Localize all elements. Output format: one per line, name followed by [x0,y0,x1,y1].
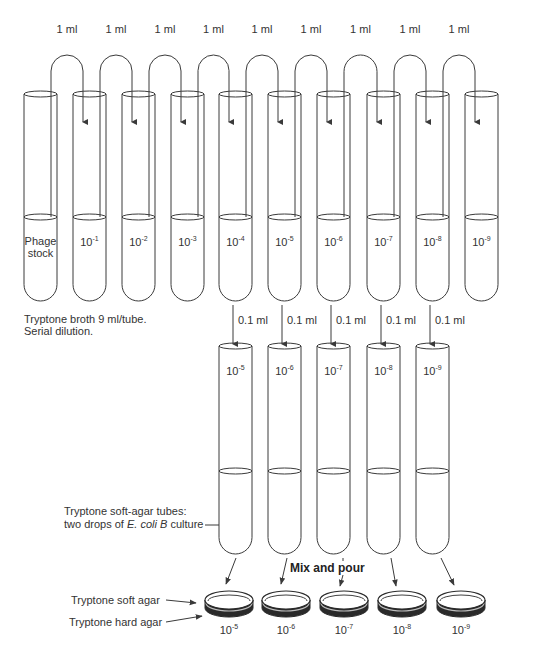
top-tube [465,91,498,301]
transfer-arc-labels: 1 ml1 ml1 ml1 ml1 ml1 ml1 ml1 ml1 ml [57,23,470,35]
transfer-volume-label: 1 ml [400,23,421,35]
hard-agar-pointer [166,616,202,622]
top-tube [317,91,350,301]
transfer-pipette-arc [149,55,181,217]
transfer-pipette-arc [246,55,278,217]
petri-plate [262,591,310,617]
serial-dilution-diagram: 1 ml1 ml1 ml1 ml1 ml1 ml1 ml1 ml1 ml Pha… [0,0,534,651]
soft-agar-tube-label: 10-7 [324,364,343,377]
pour-arrow [226,558,236,584]
transfer-volume-label: 1 ml [350,23,371,35]
phage-stock-label: stock [28,247,54,259]
mid-transfer-label: 0.1 ml [386,314,416,326]
diagram-canvas: 1 ml1 ml1 ml1 ml1 ml1 ml1 ml1 ml1 ml Pha… [0,0,534,651]
pour-arrow [441,558,454,585]
top-tube-dilution-label: 10-8 [423,235,442,248]
mid-transfer-labels: 0.1 ml0.1 ml0.1 ml0.1 ml0.1 ml [238,314,465,326]
soft-agar-tube-label: 10-6 [275,364,294,377]
transfer-volume-label: 1 ml [57,23,78,35]
top-tube-dilution-label: 10-2 [129,235,148,248]
top-tube [122,91,155,301]
mid-transfer-label: 0.1 ml [287,314,317,326]
transfer-volume-label: 1 ml [106,23,127,35]
hard-agar-layer-label: Tryptone hard agar [69,616,162,628]
broth-note-line1: Tryptone broth 9 ml/tube. [24,313,147,325]
top-tube [219,91,252,301]
soft-agar-pointer [166,600,196,603]
transfer-pipette-arc [344,55,377,217]
top-tube [24,91,57,301]
top-tube [73,91,106,301]
plate-dilution-label: 10-9 [452,623,471,636]
transfer-pipette-arc [443,55,475,217]
transfer-pipette-arc [394,55,426,217]
petri-plate [378,591,426,617]
plate-dilution-label: 10-8 [393,623,412,636]
transfer-volume-label: 1 ml [252,23,273,35]
plate-dilution-label: 10-7 [335,623,354,636]
transfer-volume-label: 1 ml [449,23,470,35]
petri-plate [437,591,485,617]
petri-plate [320,591,368,617]
transfer-volume-label: 1 ml [155,23,176,35]
top-tube [171,91,204,301]
soft-agar-note-line2: two drops of E. coli B culture [64,518,203,530]
top-tube-row [24,91,498,301]
top-tube [268,91,301,301]
mid-transfer-label: 0.1 ml [435,314,465,326]
top-tube-dilution-label: 10-9 [472,235,491,248]
transfer-pipette-arc [198,55,229,217]
top-tube-dilution-label: 10-4 [226,235,245,248]
transfer-arcs [51,55,475,217]
soft-agar-tube-label: 10-5 [226,364,245,377]
pour-arrow [340,575,343,586]
broth-note-line2: Serial dilution. [24,325,93,337]
phage-stock-label: Phage [25,235,57,247]
transfer-pipette-arc [51,55,83,217]
soft-agar-tube-label: 10-9 [423,364,442,377]
mix-and-pour-label: Mix and pour [290,561,365,575]
top-tube-dilution-label: 10-7 [374,235,393,248]
soft-agar-tube-label: 10-8 [374,364,393,377]
transfer-pipette-arc [100,55,132,217]
mid-transfer-label: 0.1 ml [336,314,366,326]
petri-plate [205,591,253,617]
pour-arrow [391,558,396,586]
mid-transfer-label: 0.1 ml [238,314,268,326]
pour-arrow [281,558,287,584]
top-tube-dilution-label: 10-6 [324,235,343,248]
plate-dilution-label: 10-5 [220,623,239,636]
soft-agar-note-line1: Tryptone soft-agar tubes: [64,505,187,517]
top-tube-dilution-label: 10-3 [178,235,197,248]
plate-dilution-labels: 10-510-610-710-810-9 [220,623,471,636]
soft-agar-tube-labels: 10-510-610-710-810-9 [226,364,442,377]
top-tube-labels: Phagestock10-110-210-310-410-510-610-710… [25,235,491,259]
soft-agar-layer-label: Tryptone soft agar [71,594,160,606]
transfer-pipette-arc [295,55,327,217]
top-tube-dilution-label: 10-5 [275,235,294,248]
top-tube [367,91,400,301]
top-tube-dilution-label: 10-1 [80,235,99,248]
top-tube [416,91,449,301]
petri-plates [205,591,485,617]
transfer-volume-label: 1 ml [301,23,322,35]
plate-dilution-label: 10-6 [277,623,296,636]
transfer-volume-label: 1 ml [203,23,224,35]
